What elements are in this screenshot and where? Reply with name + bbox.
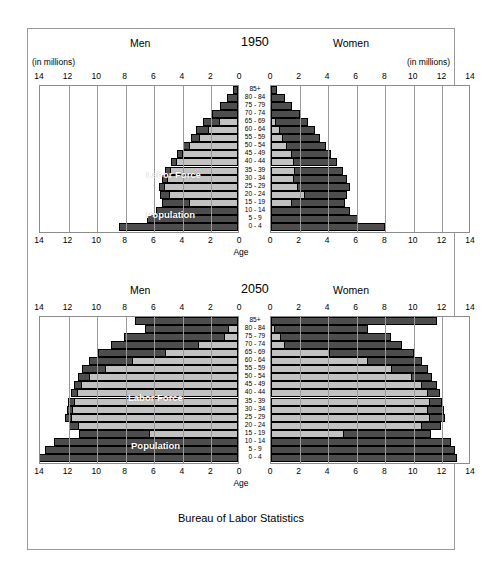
gridline — [300, 86, 301, 232]
axis-tick: 4 — [179, 466, 184, 476]
pyramid-row — [271, 349, 469, 357]
bar-labor-force — [199, 134, 238, 142]
pyramid-row — [271, 167, 469, 175]
age-group-label: 35 - 39 — [240, 166, 270, 174]
age-group-label: 65 - 69 — [240, 117, 270, 125]
age-caption-1950: Age — [28, 247, 454, 257]
gridline — [385, 317, 386, 463]
gridline — [183, 86, 184, 232]
bar-population — [227, 94, 238, 102]
age-group-label: 20 - 24 — [240, 190, 270, 198]
men-label: Men — [130, 284, 150, 296]
pyramid-row — [271, 414, 469, 422]
axis-tick: 0 — [268, 235, 273, 245]
bar-population — [271, 438, 451, 446]
pyramid-row — [271, 365, 469, 373]
pyramid-row — [271, 191, 469, 199]
bar-labor-force — [78, 422, 238, 430]
bar-population — [271, 317, 437, 325]
pyramid-row — [40, 317, 238, 325]
plot-2050: 85+80 - 8475 - 7970 - 7465 - 6960 - 6455… — [28, 316, 454, 464]
bar-labor-force — [271, 365, 392, 373]
bar-population — [271, 215, 358, 223]
bar-population — [212, 110, 238, 118]
pyramid-row — [40, 175, 238, 183]
bar-labor-force — [271, 373, 412, 381]
gridline — [211, 86, 212, 232]
age-group-label: 5 - 9 — [240, 214, 270, 222]
bar-population — [271, 341, 402, 349]
pyramid-row — [40, 86, 238, 94]
axis-tick: 6 — [353, 71, 358, 81]
pyramid-row — [40, 430, 238, 438]
bar-labor-force — [271, 150, 292, 158]
pyramid-row — [271, 454, 469, 462]
plot-women-2050 — [270, 316, 470, 464]
pyramid-row — [271, 223, 469, 231]
gridline — [97, 86, 98, 232]
plot-men-1950 — [39, 85, 239, 233]
gridline — [414, 317, 415, 463]
panel-1950: Men 1950 Women (in millions) (in million… — [28, 37, 454, 267]
bar-labor-force — [208, 126, 238, 134]
pyramid-row — [40, 349, 238, 357]
bar-population — [147, 215, 238, 223]
axis-tick: 0 — [237, 466, 242, 476]
axis-tick: 2 — [208, 235, 213, 245]
gridline — [211, 317, 212, 463]
bar-labor-force — [271, 199, 292, 207]
gridline — [414, 86, 415, 232]
bar-population — [124, 333, 238, 341]
age-group-label: 45 - 49 — [240, 380, 270, 388]
axis-tick: 12 — [437, 235, 446, 245]
axis-tick: 6 — [151, 466, 156, 476]
bar-population — [145, 325, 238, 333]
axis-tick: 12 — [63, 302, 72, 312]
pyramid-row — [271, 94, 469, 102]
pyramid-row — [271, 446, 469, 454]
axis-tick: 14 — [34, 466, 43, 476]
pyramid-row — [40, 341, 238, 349]
age-group-label: 30 - 34 — [240, 405, 270, 413]
pyramid-row — [271, 317, 469, 325]
pyramid-row — [40, 381, 238, 389]
panel-header-1950: Men 1950 Women — [28, 37, 454, 57]
pyramid-row — [271, 341, 469, 349]
axis-tick: 4 — [325, 235, 330, 245]
pyramid-row — [271, 333, 469, 341]
bar-labor-force — [271, 325, 275, 333]
pyramid-row — [40, 110, 238, 118]
units-label-left: (in millions) — [32, 57, 75, 67]
bar-labor-force — [271, 341, 285, 349]
axis-tick: 2 — [296, 466, 301, 476]
pyramid-row — [271, 175, 469, 183]
axis-tick: 4 — [179, 302, 184, 312]
axis-tick: 14 — [34, 235, 43, 245]
age-group-label: 40 - 44 — [240, 157, 270, 165]
pyramid-row — [40, 207, 238, 215]
age-group-label: 80 - 84 — [240, 324, 270, 332]
gridline — [183, 317, 184, 463]
axis-tick: 8 — [382, 466, 387, 476]
pyramid-row — [40, 325, 238, 333]
pyramid-row — [271, 430, 469, 438]
pyramid-row — [40, 398, 238, 406]
age-group-label: 40 - 44 — [240, 388, 270, 396]
bar-population — [271, 118, 308, 126]
age-group-label: 65 - 69 — [240, 348, 270, 356]
age-group-label: 60 - 64 — [240, 125, 270, 133]
plot-men-2050 — [39, 316, 239, 464]
bar-population — [156, 207, 238, 215]
pyramid-row — [271, 373, 469, 381]
plot-women-1950 — [270, 85, 470, 233]
bar-labor-force — [169, 191, 238, 199]
pyramid-row — [40, 183, 238, 191]
bar-labor-force — [132, 357, 238, 365]
bar-labor-force — [81, 381, 238, 389]
women-label: Women — [333, 37, 369, 49]
pyramid-row — [271, 142, 469, 150]
pyramid-row — [271, 406, 469, 414]
pyramid-row — [271, 110, 469, 118]
gridline — [154, 317, 155, 463]
axis-tick: 6 — [151, 71, 156, 81]
